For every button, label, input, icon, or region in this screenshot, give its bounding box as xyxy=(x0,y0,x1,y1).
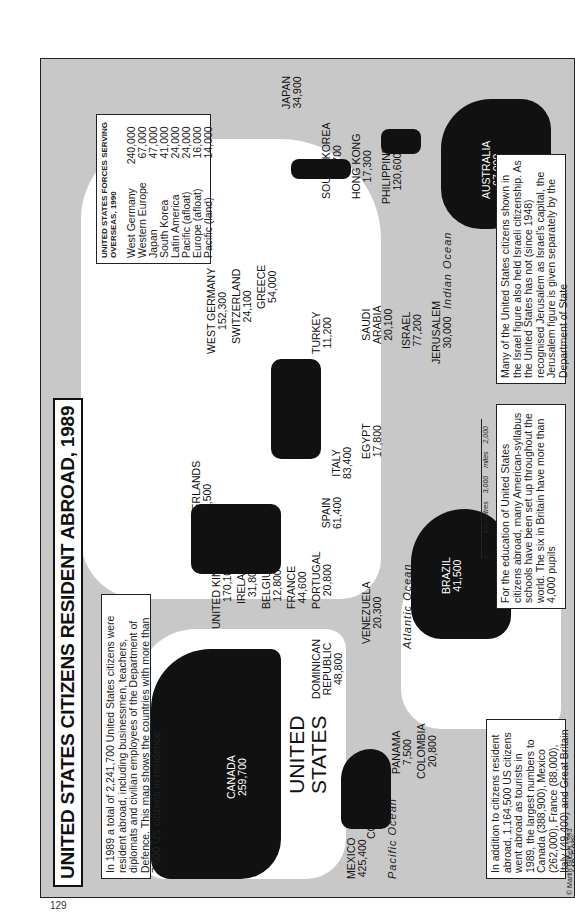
label-spain: SPAIN61,400 xyxy=(321,497,343,529)
label-greece: GREECE54,000 xyxy=(256,265,278,309)
label-mexico: MEXICO425,400 xyxy=(346,838,368,879)
label-colombia: COLOMBIA20,800 xyxy=(416,724,438,779)
label-united-states: UNITEDSTATES xyxy=(286,715,330,794)
label-italy: ITALY83,400 xyxy=(331,447,353,479)
label-pacific-ocean: Pacific Ocean xyxy=(386,798,398,879)
label-panama: PANAMA7,500 xyxy=(391,730,413,774)
label-ireland: IRELAND31,800 xyxy=(236,558,258,604)
label-switzerland: SWITZERLAND24,100 xyxy=(231,269,253,344)
intro-note: In 1989 a total of 2,241,700 United Stat… xyxy=(101,594,151,879)
label-egypt: EGYPT17,800 xyxy=(361,423,383,459)
label-israel: ISRAEL77,200 xyxy=(401,312,423,349)
israel-note: Many of the United States citizens shown… xyxy=(496,154,566,384)
label-atlantic-ocean: Atlantic Ocean xyxy=(401,563,413,649)
label-philippines: PHILIPPINES120,600 xyxy=(381,139,403,204)
map-frame: UNITED STATES CITIZENS RESIDENT ABROAD, … xyxy=(40,58,575,898)
forces-heading: UNITED STATES FORCES SERVING OVERSEAS, 1… xyxy=(100,120,118,258)
forces-table: West Germany240,000 Western Europe67,000… xyxy=(126,126,214,258)
label-japan: JAPAN34,900 xyxy=(281,76,303,109)
label-belgium: BELGIUM12,800 xyxy=(261,562,283,609)
label-saudi-arabia: SAUDIARABIA20,100 xyxy=(361,305,394,344)
label-netherlands: NETHERLANDS22,500 xyxy=(191,461,213,539)
page-number: 129 xyxy=(50,900,67,911)
label-hong-kong: HONG KONG17,300 xyxy=(351,134,373,199)
copyright: © Martin Gilbert 1993 xyxy=(566,828,573,895)
label-france: FRANCE44,600 xyxy=(286,566,308,609)
label-dominican-republic: DOMINICANREPUBLIC48,800 xyxy=(311,639,344,699)
label-venezuela: VENEZUELA20,300 xyxy=(361,582,383,644)
scale-bar: 0 kilometres 3,000 miles 2,000 xyxy=(481,419,489,559)
label-indian-ocean: Indian Ocean xyxy=(441,232,453,309)
map-title: UNITED STATES CITIZENS RESIDENT ABROAD, … xyxy=(53,398,83,887)
label-jerusalem: JERUSALEM30,000 xyxy=(431,301,453,364)
label-west-germany: WEST GERMANY152,300 xyxy=(206,268,228,354)
schools-note: For the education of United States citiz… xyxy=(496,404,566,609)
label-canada: CANADA259,700 xyxy=(226,755,248,799)
label-brazil: BRAZIL41,500 xyxy=(441,557,463,594)
label-portugal: PORTUGAL20,800 xyxy=(311,551,333,609)
region-middle-east xyxy=(271,359,321,459)
label-costa-rica: COSTA RICA23,700 xyxy=(366,776,388,839)
label-south-korea: SOUTH KOREA11,700 xyxy=(321,123,343,199)
label-united-kingdom: UNITED KINGDOM170,100 xyxy=(211,537,233,629)
forces-box: UNITED STATES FORCES SERVING OVERSEAS, 1… xyxy=(96,114,211,264)
tourists-note: In addition to citizens resident abroad,… xyxy=(486,719,566,879)
table-row: Pacific (land)14,000 xyxy=(203,126,214,258)
map-stage: UNITED STATES CITIZENS RESIDENT ABROAD, … xyxy=(41,59,575,898)
region-canada xyxy=(151,649,281,879)
label-turkey: TURKEY11,200 xyxy=(311,311,333,354)
